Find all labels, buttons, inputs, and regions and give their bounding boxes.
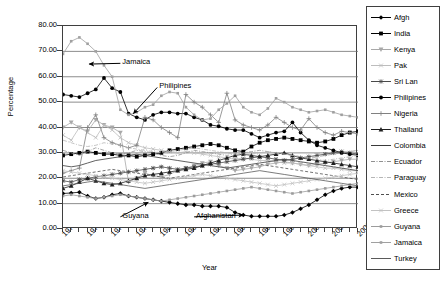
legend-label: Turkey <box>394 254 417 263</box>
legend-item-afgh[interactable]: Afgh <box>370 9 439 25</box>
legend-key <box>370 92 392 103</box>
legend-item-nigeria[interactable]: Nigeria <box>370 106 439 122</box>
legend-item-guyana[interactable]: Guyana <box>370 218 439 234</box>
y-axis-title: Percentage <box>6 66 15 128</box>
legend-key <box>370 221 392 232</box>
y-tick-label: 40.00 <box>17 122 57 131</box>
y-tick-label: 80.00 <box>17 20 57 29</box>
legend-item-kenya[interactable]: Kenya <box>370 41 439 57</box>
legend-item-philipines[interactable]: Philipines <box>370 89 439 105</box>
legend-key <box>370 189 392 200</box>
legend-key <box>370 172 392 183</box>
legend-label: Mexico <box>394 190 418 199</box>
annotation-label: Jamaica <box>122 57 150 66</box>
legend-label: Paraguay <box>394 173 426 182</box>
legend-key <box>370 140 392 151</box>
legend-key <box>370 108 392 119</box>
y-tick-label: 30.00 <box>17 147 57 156</box>
legend-item-pak[interactable]: Pak <box>370 57 439 73</box>
legend-item-sri-lan[interactable]: Sri Lan <box>370 73 439 89</box>
annotation-label: Philipines <box>159 81 191 90</box>
y-tick-label: 10.00 <box>17 198 57 207</box>
chart-area: Percentage 0.0010.0020.0030.0040.0050.00… <box>0 0 362 281</box>
legend-label: Guyana <box>394 222 420 231</box>
legend-item-jamaica[interactable]: Jamaica <box>370 234 439 250</box>
legend-label: Ecuador <box>394 157 422 166</box>
legend-key <box>370 44 392 55</box>
legend-item-thailand[interactable]: Thailand <box>370 122 439 138</box>
legend-key <box>370 28 392 39</box>
annotation-label: Afghanistan <box>196 211 236 220</box>
legend-key <box>370 124 392 135</box>
legend-item-paraguay[interactable]: Paraguay <box>370 170 439 186</box>
legend-label: Colombia <box>394 141 426 150</box>
y-tick-label: 60.00 <box>17 71 57 80</box>
legend-key <box>370 12 392 23</box>
legend-label: India <box>394 29 410 38</box>
legend-item-india[interactable]: India <box>370 25 439 41</box>
legend-label: Philipines <box>394 93 426 102</box>
legend-key <box>370 253 392 264</box>
legend-label: Kenya <box>394 45 415 54</box>
legend-key <box>370 60 392 71</box>
legend-item-ecuador[interactable]: Ecuador <box>370 154 439 170</box>
legend-key <box>370 156 392 167</box>
legend-label: Afgh <box>394 13 409 22</box>
annotation-arrows <box>63 26 358 229</box>
chart-figure: Percentage 0.0010.0020.0030.0040.0050.00… <box>0 0 445 281</box>
legend-label: Thailand <box>394 125 423 134</box>
legend-label: Jamaica <box>394 238 422 247</box>
legend-label: Nigeria <box>394 109 418 118</box>
legend-item-turkey[interactable]: Turkey <box>370 250 439 266</box>
legend: AfghIndiaKenyaPakSri LanPhilipinesNigeri… <box>366 6 440 270</box>
legend-label: Pak <box>394 61 407 70</box>
y-tick-label: 20.00 <box>17 172 57 181</box>
plot-region <box>62 25 357 228</box>
y-tick-label: 0.00 <box>17 223 57 232</box>
legend-item-colombia[interactable]: Colombia <box>370 138 439 154</box>
legend-key <box>370 76 392 87</box>
legend-item-greece[interactable]: Greece <box>370 202 439 218</box>
legend-key <box>370 237 392 248</box>
legend-label: Sri Lan <box>394 77 418 86</box>
legend-item-mexico[interactable]: Mexico <box>370 186 439 202</box>
y-tick-label: 70.00 <box>17 45 57 54</box>
legend-key <box>370 205 392 216</box>
x-axis-title: Year <box>62 263 357 272</box>
annotation-label: Guyana <box>122 211 148 220</box>
legend-label: Greece <box>394 206 419 215</box>
y-tick-label: 50.00 <box>17 96 57 105</box>
